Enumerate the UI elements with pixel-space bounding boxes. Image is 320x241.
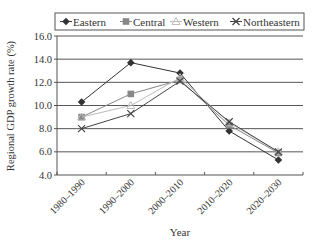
y-tick-label: 8.0: [39, 123, 52, 134]
y-tick-label: 4.0: [39, 170, 52, 181]
y-tick-label: 16.0: [34, 31, 52, 42]
square-marker-icon: [128, 91, 135, 98]
series-line: [82, 81, 279, 152]
series-line: [82, 78, 279, 152]
gridlines: [54, 36, 303, 175]
data-series: [78, 59, 283, 164]
legend: EasternCentralWesternNortheastern: [55, 13, 304, 30]
y-tick-labels: 4.06.08.010.012.014.016.0: [34, 31, 52, 181]
x-marker-icon: [127, 110, 134, 117]
diamond-marker-icon: [275, 156, 283, 164]
legend-label: Eastern: [73, 16, 106, 28]
x-tick-label: 1990–2000: [97, 177, 137, 217]
square-marker-icon: [123, 18, 130, 25]
legend-label: Central: [133, 16, 165, 28]
legend-label: Western: [183, 16, 219, 28]
x-axis-label: Year: [170, 226, 191, 238]
x-tick-label: 1980–1990: [47, 177, 87, 217]
line-chart: 4.06.08.010.012.014.016.0 1980–19901990–…: [0, 0, 320, 241]
y-tick-label: 6.0: [39, 146, 52, 157]
y-tick-label: 10.0: [34, 100, 52, 111]
y-tick-label: 12.0: [34, 77, 52, 88]
series-western: [78, 74, 283, 155]
x-tick-label: 2010–2020: [195, 177, 235, 217]
y-axis-label: Regional GDP growth rate (%): [5, 40, 17, 171]
legend-label: Northeastern: [243, 16, 300, 28]
y-tick-label: 14.0: [34, 54, 52, 65]
x-tick-label: 2020–2030: [244, 177, 284, 217]
x-tick-labels: 1980–19901990–20002000–20102010–20202020…: [47, 177, 283, 217]
x-tick-label: 2000–2010: [146, 177, 186, 217]
chart-canvas: 4.06.08.010.012.014.016.0 1980–19901990–…: [0, 0, 320, 241]
